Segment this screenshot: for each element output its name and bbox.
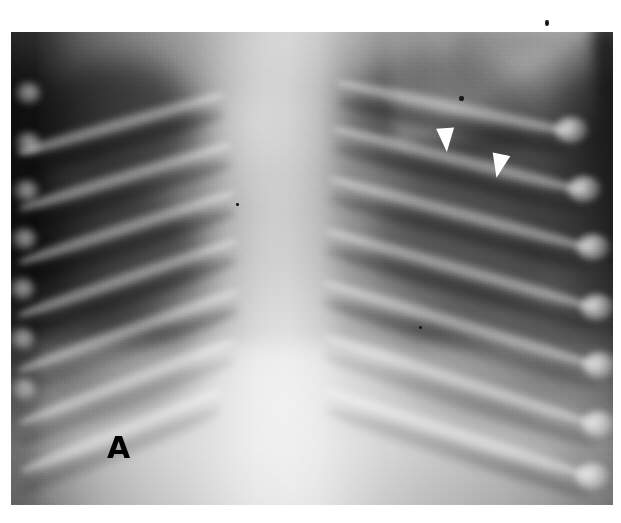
film-grain-layer-2 xyxy=(11,32,613,505)
film-artifact-speck xyxy=(545,20,549,26)
arrowhead-upper-icon xyxy=(436,127,456,152)
film-artifact-speck xyxy=(459,96,464,101)
figure-canvas: A xyxy=(0,0,621,523)
panel-label: A xyxy=(107,433,130,463)
chest-radiograph-image xyxy=(11,32,613,505)
film-artifact-speck xyxy=(419,326,422,329)
film-artifact-speck xyxy=(236,203,239,206)
